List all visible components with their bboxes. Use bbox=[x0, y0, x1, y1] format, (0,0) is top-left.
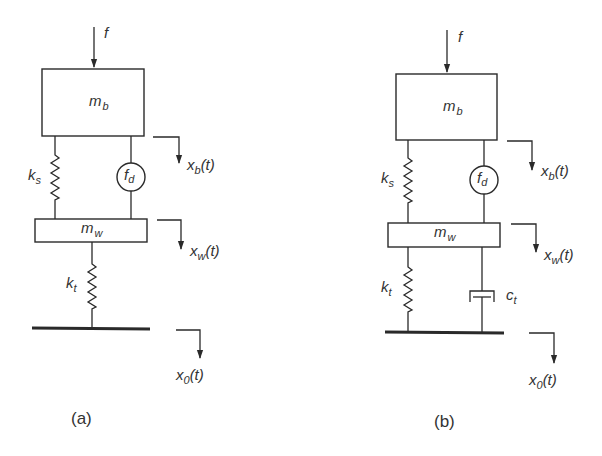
suspension-spring: ks bbox=[28, 136, 59, 219]
input-force-arrow: f bbox=[94, 24, 110, 67]
input-force-label: f bbox=[458, 28, 464, 45]
body-displacement-label: xb(t) bbox=[540, 162, 569, 182]
wheel-displacement-label: xw(t) bbox=[543, 246, 574, 266]
road-displacement-arrow: x0(t) bbox=[175, 330, 204, 386]
input-force-label: f bbox=[104, 24, 110, 41]
road-ground-line bbox=[385, 332, 504, 333]
body-displacement-arrow: xb(t) bbox=[153, 137, 215, 176]
suspension-spring-label: ks bbox=[28, 166, 42, 186]
suspension-spring: ks bbox=[381, 140, 412, 223]
panel-a-caption: (a) bbox=[71, 409, 92, 428]
wheel-displacement-arrow: xw(t) bbox=[157, 220, 220, 262]
tire-spring: kt bbox=[66, 242, 96, 328]
road-displacement-label: x0(t) bbox=[175, 366, 204, 386]
tire-spring: kt bbox=[381, 247, 412, 332]
wheel-displacement-arrow: xw(t) bbox=[511, 224, 574, 266]
road-displacement-arrow: x0(t) bbox=[528, 333, 557, 391]
panel-b-caption: (b) bbox=[434, 412, 455, 431]
actuator-force-element: fd bbox=[117, 136, 145, 219]
input-force-arrow: f bbox=[447, 28, 464, 72]
road-displacement-label: x0(t) bbox=[528, 371, 557, 391]
panel-a: f mb xb(t) ks fd mw bbox=[28, 24, 220, 428]
body-mass-block: mb bbox=[42, 69, 144, 136]
body-mass-block: mb bbox=[396, 74, 497, 140]
body-displacement-label: xb(t) bbox=[186, 156, 215, 176]
tire-damper-label: ct bbox=[506, 286, 518, 306]
tire-spring-label: kt bbox=[381, 278, 393, 298]
body-displacement-arrow: xb(t) bbox=[507, 141, 569, 182]
wheel-displacement-label: xw(t) bbox=[189, 242, 220, 262]
panel-b: f mb xb(t) ks fd mw xw(t) bbox=[381, 28, 574, 431]
tire-damper: ct bbox=[470, 247, 518, 332]
road-ground-line bbox=[32, 328, 150, 329]
actuator-force-element: fd bbox=[470, 140, 498, 223]
wheel-mass-block: mw bbox=[388, 223, 500, 247]
suspension-spring-label: ks bbox=[381, 169, 395, 189]
wheel-mass-block: mw bbox=[35, 219, 147, 242]
quarter-car-models-figure: f mb xb(t) ks fd mw bbox=[0, 0, 602, 456]
tire-spring-label: kt bbox=[66, 274, 78, 294]
